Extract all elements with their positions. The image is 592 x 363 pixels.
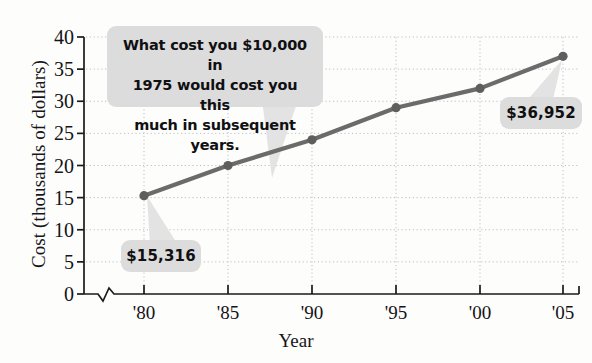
callout-line-1: What cost you $10,000 in xyxy=(117,35,313,75)
line-chart: Cost (thousands of dollars) Year 0510152… xyxy=(0,0,592,363)
callout-line-3: much in subsequent years. xyxy=(117,115,313,155)
callout-annotation: What cost you $10,000 in 1975 would cost… xyxy=(107,26,323,107)
value-label-2005: $36,952 xyxy=(500,97,582,129)
value-label-1980: $15,316 xyxy=(121,240,201,272)
callout-line-2: 1975 would cost you this xyxy=(117,75,313,115)
